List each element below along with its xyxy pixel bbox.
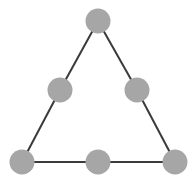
node-bottom-left xyxy=(10,150,35,175)
node-bottom-mid xyxy=(86,150,111,175)
node-mid-right xyxy=(125,78,150,103)
nodes-layer xyxy=(10,9,188,175)
node-bottom-right xyxy=(163,150,188,175)
node-top xyxy=(86,9,111,34)
triangle-graph-diagram xyxy=(0,0,194,186)
node-mid-left xyxy=(48,78,73,103)
edges-layer xyxy=(22,21,175,162)
